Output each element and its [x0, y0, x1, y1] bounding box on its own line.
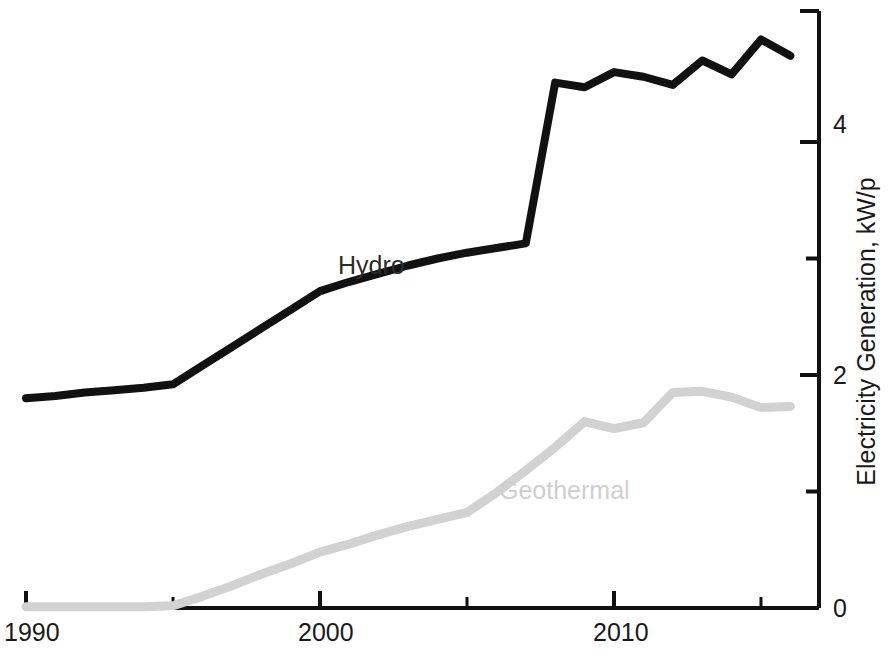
x-tick-label-1990: 1990 [4, 620, 60, 645]
y-axis-title-text: Electricity Generation, kW/p [852, 177, 881, 485]
line-chart-plot [0, 0, 888, 662]
x-tick-label-2000: 2000 [298, 620, 354, 645]
y-axis-title: Electricity Generation, kW/p [846, 0, 886, 662]
y-tick-label-4: 4 [833, 112, 847, 137]
chart-figure: 1990 2000 2010 0 2 4 Electricity Generat… [0, 0, 888, 662]
y-tick-label-2: 2 [833, 363, 847, 388]
series-lines [26, 39, 790, 606]
series-label-hydro: Hydro [338, 253, 405, 278]
y-tick-label-0: 0 [833, 596, 847, 621]
x-tick-label-2010: 2010 [593, 620, 649, 645]
series-line-hydro [26, 39, 790, 398]
series-label-geothermal: Geothermal [499, 478, 630, 503]
series-line-geothermal [26, 391, 790, 607]
